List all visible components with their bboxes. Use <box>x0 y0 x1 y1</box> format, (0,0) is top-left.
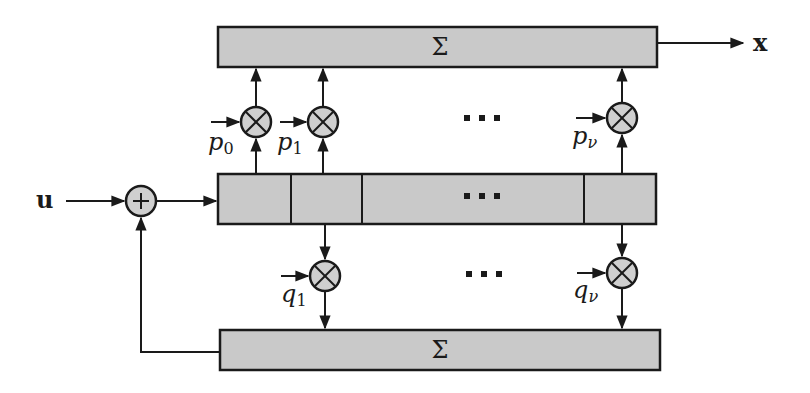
qnu-label: qν <box>573 276 598 306</box>
q1-label: q1 <box>281 280 307 310</box>
feedback-path <box>141 218 220 352</box>
bottom-ellipsis <box>466 271 502 277</box>
shift-register <box>218 174 656 224</box>
bottom-sum-label: Σ <box>432 336 449 364</box>
p1-label: p1 <box>277 128 303 158</box>
register-ellipsis <box>464 193 500 199</box>
top-sum-block: Σ <box>218 27 657 67</box>
input-label: u <box>36 185 53 214</box>
adder-node <box>126 186 156 216</box>
p0-label: p0 <box>208 128 234 158</box>
tap-p1 <box>280 69 338 174</box>
diagram-svg: Σ x Σ u <box>0 0 810 393</box>
top-sum-label: Σ <box>432 33 449 61</box>
bottom-sum-block: Σ <box>220 330 660 370</box>
top-ellipsis <box>464 115 500 121</box>
block-diagram: Σ x Σ u <box>0 0 810 393</box>
pnu-label: pν <box>572 122 597 152</box>
output-label: x <box>753 28 768 57</box>
tap-p0 <box>211 69 271 174</box>
tap-q1 <box>281 224 340 328</box>
